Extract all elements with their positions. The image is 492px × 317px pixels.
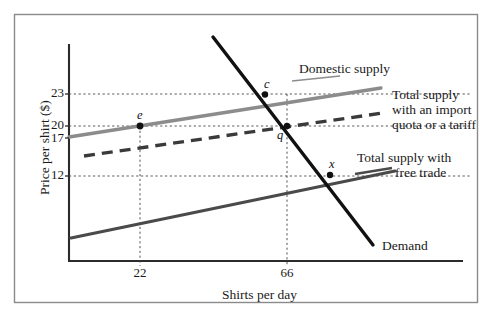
x-axis-title: Shirts per day [222,287,297,302]
point-label-c: c [264,77,270,91]
label-demand: Demand [382,238,428,253]
point-marker-e [137,123,144,130]
y-tick-label-23: 23 [44,86,64,101]
label-total-supply-quota-line2: with an import [392,102,476,117]
label-total-supply-quota-line3: quota or a tariff [392,117,476,132]
point-marker-q [284,123,290,129]
label-free-trade-line2: free trade [395,165,451,180]
x-tick-label-22: 22 [125,266,155,281]
label-total-supply-free-trade: Total supply with free trade [357,150,451,180]
point-marker-x [327,172,333,178]
point-marker-c [262,91,268,97]
point-label-e: e [137,108,143,122]
label-domestic-supply: Domestic supply [299,61,390,76]
y-tick-label-17: 17 [44,131,64,146]
label-free-trade-line1: Total supply with [357,150,451,165]
economics-supply-demand-figure: Price per shirt ($) 23 20 17 12 22 66 Sh… [0,0,492,317]
point-label-q: q [277,128,283,142]
label-total-supply-quota: Total supply with an import quota or a t… [392,87,476,132]
label-total-supply-quota-line1: Total supply [392,87,476,102]
x-tick-label-66: 66 [272,266,302,281]
point-label-x: x [329,157,335,171]
y-tick-label-12: 12 [44,168,64,183]
